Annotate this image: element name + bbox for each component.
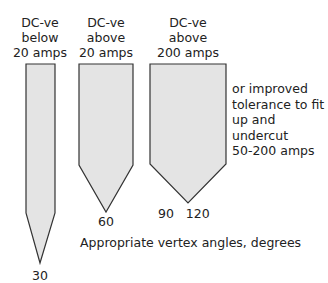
- label-line: 200 amps: [148, 45, 228, 60]
- electrode-tip-60: [79, 64, 133, 212]
- electrode-tip-30: [26, 64, 55, 263]
- electrode-3-label: DC-ve above 200 amps: [148, 15, 228, 60]
- note-line: up and undercut: [232, 112, 328, 143]
- side-note: or improved tolerance to fit up and unde…: [232, 81, 328, 159]
- label-line: 20 amps: [10, 45, 70, 60]
- angle-label-90-120: 90 120: [158, 206, 238, 221]
- angle-label-30: 30: [25, 268, 55, 283]
- label-line: DC-ve: [10, 15, 70, 30]
- electrode-2-label: DC-ve above 20 amps: [71, 15, 141, 60]
- label-line: above: [148, 30, 228, 45]
- label-line: DC-ve: [148, 15, 228, 30]
- label-line: above: [71, 30, 141, 45]
- angle-label-60: 60: [91, 214, 121, 229]
- label-line: 20 amps: [71, 45, 141, 60]
- electrode-1-label: DC-ve below 20 amps: [10, 15, 70, 60]
- note-line: or improved: [232, 81, 328, 97]
- note-line: 50-200 amps: [232, 143, 328, 159]
- label-line: below: [10, 30, 70, 45]
- caption: Appropriate vertex angles, degrees: [80, 235, 320, 250]
- note-line: tolerance to fit: [232, 97, 328, 113]
- label-line: DC-ve: [71, 15, 141, 30]
- electrode-tip-90-120: [150, 64, 226, 203]
